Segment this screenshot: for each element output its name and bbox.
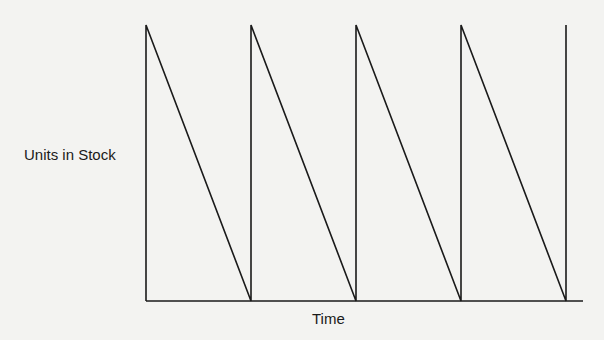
x-axis-label: Time — [312, 310, 345, 327]
y-axis-label: Units in Stock — [24, 146, 116, 163]
sawtooth-chart — [0, 0, 604, 340]
inventory-line — [146, 25, 566, 301]
